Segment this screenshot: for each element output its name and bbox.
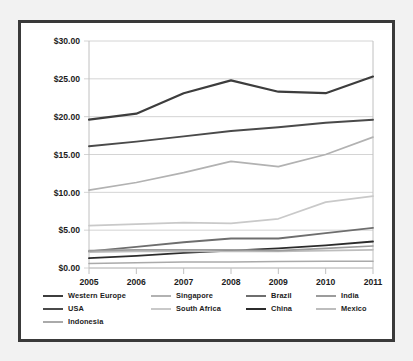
legend-swatch-icon xyxy=(151,295,171,297)
legend-label: Mexico xyxy=(341,305,367,312)
y-axis-tick-label: $25.00 xyxy=(54,74,81,84)
y-axis-tick-label: $0.00 xyxy=(58,263,80,273)
legend-swatch-icon xyxy=(43,321,63,323)
legend-item-western-europe[interactable]: Western Europe xyxy=(43,292,151,299)
legend-label: Western Europe xyxy=(68,292,126,299)
legend-label: South Africa xyxy=(176,305,221,312)
y-axis-tick-label: $15.00 xyxy=(54,150,81,160)
legend-swatch-icon xyxy=(246,295,266,297)
x-axis-tick-label: 2006 xyxy=(127,277,146,287)
y-axis-tick-label: $30.00 xyxy=(54,36,81,46)
legend-swatch-icon xyxy=(316,295,336,297)
legend-item-mexico[interactable]: Mexico xyxy=(316,305,382,312)
legend-item-indonesia[interactable]: Indonesia xyxy=(43,318,151,325)
chart-legend: Western EuropeSingaporeBrazilIndiaUSASou… xyxy=(43,289,383,328)
legend-item-south-africa[interactable]: South Africa xyxy=(151,305,246,312)
legend-item-usa[interactable]: USA xyxy=(43,305,151,312)
y-axis-tick-label: $10.00 xyxy=(54,188,81,198)
x-axis-tick-label: 2010 xyxy=(316,277,335,287)
series-line-indonesia xyxy=(89,261,373,263)
series-line-south-africa xyxy=(89,196,373,226)
legend-item-singapore[interactable]: Singapore xyxy=(151,292,246,299)
legend-item-china[interactable]: China xyxy=(246,305,316,312)
legend-row: USASouth AfricaChinaMexico xyxy=(43,302,383,315)
legend-label: USA xyxy=(68,305,84,312)
x-axis-tick-label: 2009 xyxy=(269,277,288,287)
legend-label: India xyxy=(341,292,359,299)
legend-swatch-icon xyxy=(43,295,63,297)
legend-label: China xyxy=(271,305,292,312)
x-axis-tick-label: 2007 xyxy=(174,277,193,287)
legend-label: Brazil xyxy=(271,292,292,299)
legend-label: Singapore xyxy=(176,292,213,299)
x-axis-tick-label: 2005 xyxy=(79,277,98,287)
legend-swatch-icon xyxy=(316,308,336,310)
series-line-usa xyxy=(89,120,373,146)
legend-item-india[interactable]: India xyxy=(316,292,382,299)
x-axis-tick-label: 2011 xyxy=(364,277,383,287)
series-line-western-europe xyxy=(89,77,373,120)
x-axis-tick-label: 2008 xyxy=(221,277,240,287)
legend-item-brazil[interactable]: Brazil xyxy=(246,292,316,299)
legend-swatch-icon xyxy=(246,308,266,310)
legend-swatch-icon xyxy=(151,308,171,310)
legend-label: Indonesia xyxy=(68,318,103,325)
y-axis-tick-label: $20.00 xyxy=(54,112,81,122)
legend-row: Indonesia xyxy=(43,315,383,328)
legend-swatch-icon xyxy=(43,308,63,310)
legend-row: Western EuropeSingaporeBrazilIndia xyxy=(43,289,383,302)
chart-figure: $0.00$5.00$10.00$15.00$20.00$25.00$30.00… xyxy=(18,20,395,342)
y-axis-tick-label: $5.00 xyxy=(58,225,80,235)
series-line-singapore xyxy=(89,137,373,190)
